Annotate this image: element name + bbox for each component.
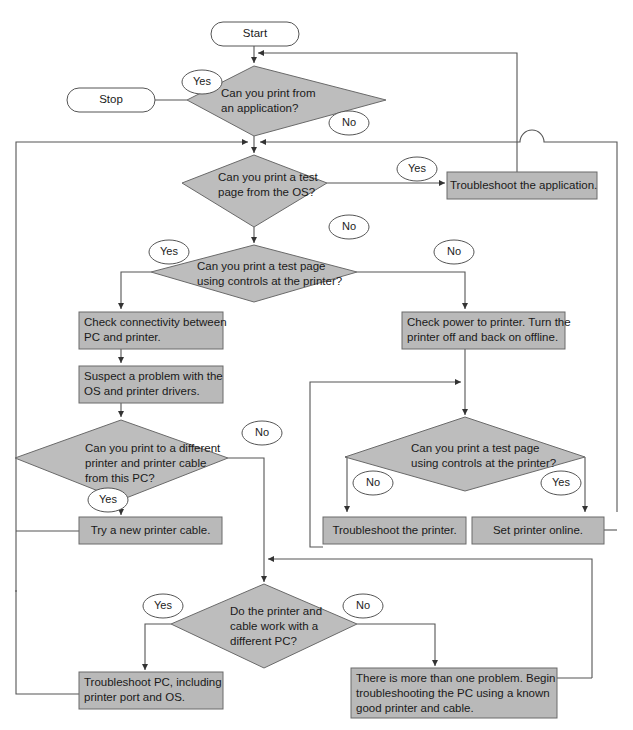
yes-label: Yes [143,599,183,611]
process-text: Set printer online. [472,523,604,538]
no-label: No [353,476,393,488]
yes-label: Yes [182,75,222,87]
troubleshooting-flowchart: Start Stop Can you print from an applica… [0,0,633,730]
no-label: No [343,599,383,611]
no-label: No [329,220,369,232]
yes-label: Yes [541,476,581,488]
process-text: Check connectivity between PC and printe… [84,315,227,345]
process-text: Troubleshoot the printer. [323,523,466,538]
decision-text: Can you print to a different printer and… [85,441,220,486]
start-label: Start [211,26,299,41]
process-text: Suspect a problem with the OS and printe… [84,369,223,399]
decision-text: Can you print a test page from the OS? [218,170,318,200]
decision-text: Do the printer and cable work with a dif… [230,604,322,649]
no-label: No [434,245,474,257]
yes-label: Yes [397,162,437,174]
no-label: No [329,116,369,128]
process-text: Check power to printer. Turn the printer… [407,315,571,345]
process-text: Try a new printer cable. [79,523,222,538]
decision-text: Can you print a test page using controls… [197,259,342,289]
stop-label: Stop [67,92,155,107]
process-text: Troubleshoot the application. [450,178,597,193]
yes-label: Yes [149,245,189,257]
process-text: There is more than one problem. Begin tr… [356,671,555,716]
yes-label: Yes [88,493,128,505]
decision-text: Can you print from an application? [221,86,316,116]
no-label: No [242,426,282,438]
decision-text: Can you print a test page using controls… [411,441,556,471]
process-text: Troubleshoot PC, including printer port … [84,675,222,705]
